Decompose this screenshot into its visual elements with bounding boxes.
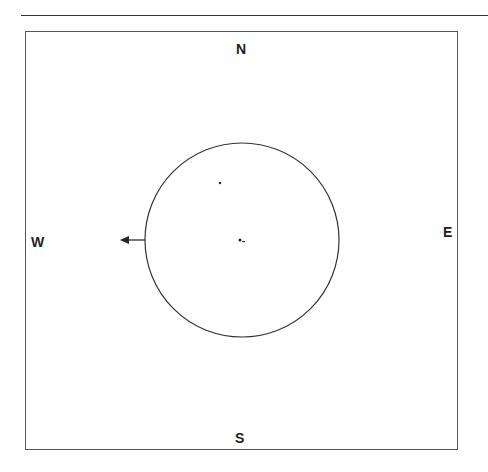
data-point (242, 241, 245, 242)
boundary-circle (145, 143, 339, 337)
west-arrow-icon (120, 236, 145, 244)
data-point (219, 182, 221, 184)
compass-diagram (0, 0, 488, 472)
center-point (239, 239, 242, 242)
